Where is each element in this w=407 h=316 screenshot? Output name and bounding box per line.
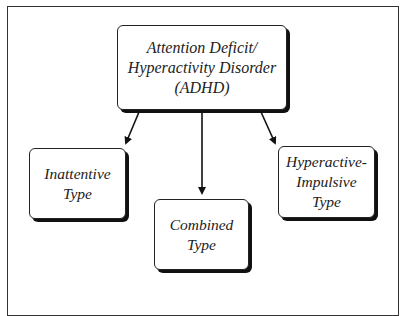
inattentive-line-1: Inattentive (44, 164, 110, 184)
hyperactive-line-1: Hyperactive- (286, 152, 367, 172)
arrow-to-hyperactive-impulsive (261, 112, 275, 143)
adhd-root-node: Attention Deficit/ Hyperactivity Disorde… (117, 25, 287, 110)
hyperactive-line-2: Impulsive (286, 172, 367, 192)
combined-type-node: Combined Type (154, 199, 249, 270)
root-line-3: (ADHD) (128, 78, 276, 98)
root-line-2: Hyperactivity Disorder (128, 58, 276, 78)
root-line-1: Attention Deficit/ (128, 38, 276, 58)
inattentive-line-2: Type (44, 184, 110, 204)
arrow-to-inattentive (126, 112, 139, 143)
combined-line-1: Combined (170, 215, 234, 235)
hyperactive-line-3: Type (286, 192, 367, 212)
hyperactive-impulsive-type-node: Hyperactive- Impulsive Type (278, 146, 375, 218)
combined-line-2: Type (170, 235, 234, 255)
inattentive-type-node: Inattentive Type (29, 148, 126, 219)
